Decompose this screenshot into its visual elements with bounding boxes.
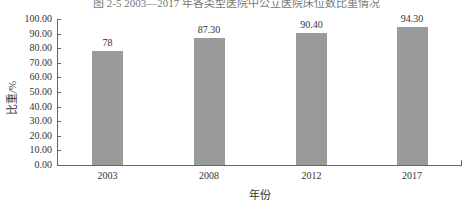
y-tick-label: 30.00 bbox=[14, 116, 52, 126]
y-tick-label: 100.00 bbox=[14, 14, 52, 24]
y-tick-label: 20.00 bbox=[14, 131, 52, 141]
y-tick-label: 40.00 bbox=[14, 102, 52, 112]
x-axis-title: 年份 bbox=[230, 186, 290, 202]
y-tick-label: 60.00 bbox=[14, 72, 52, 82]
y-tick-label: 90.00 bbox=[14, 29, 52, 39]
bar-value-label: 87.30 bbox=[179, 24, 239, 35]
bar-2017 bbox=[397, 27, 428, 165]
bar-2012 bbox=[296, 33, 327, 165]
x-tick-label: 2012 bbox=[282, 170, 342, 181]
chart-title: 图 2-5 2003—2017 年各类型医院中公立医院床位数比重情况 bbox=[0, 0, 473, 10]
y-tick-label: 0.00 bbox=[14, 160, 52, 170]
y-axis-line bbox=[57, 19, 58, 165]
y-axis-title: 比重/% bbox=[2, 78, 28, 118]
x-tick-label: 2003 bbox=[78, 170, 138, 181]
y-tick-label: 80.00 bbox=[14, 43, 52, 53]
bar-value-label: 94.30 bbox=[382, 13, 442, 24]
y-tick-label: 70.00 bbox=[14, 58, 52, 68]
bar-2008 bbox=[194, 38, 225, 165]
x-tick-label: 2008 bbox=[179, 170, 239, 181]
bar-value-label: 78 bbox=[78, 37, 138, 48]
x-axis-end-tick bbox=[461, 160, 462, 165]
y-tick-label: 10.00 bbox=[14, 145, 52, 155]
x-tick-label: 2017 bbox=[382, 170, 442, 181]
y-tick-label: 50.00 bbox=[14, 87, 52, 97]
bar-value-label: 90.40 bbox=[282, 19, 342, 30]
bar-2003 bbox=[92, 51, 123, 165]
x-axis-line bbox=[57, 165, 462, 166]
